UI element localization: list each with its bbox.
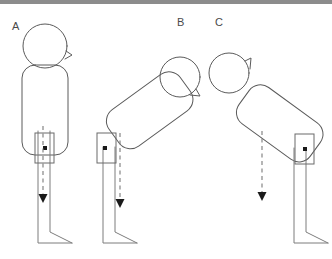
panel-c-hip-joint-marker-icon xyxy=(303,147,307,151)
panel-b-leg-back xyxy=(115,147,137,243)
panel-c-arrow-down-icon xyxy=(258,192,267,201)
panel-a-torso xyxy=(22,65,68,155)
panel-a-hip-joint-marker-icon xyxy=(43,146,47,150)
posture-diagram: A B xyxy=(0,0,332,259)
posture-figure-root: A B xyxy=(0,0,332,259)
panel-a-leg-back xyxy=(50,131,72,243)
panel-b-hip-joint-marker-icon xyxy=(103,146,107,150)
panel-a: A xyxy=(12,20,72,243)
panel-c: C xyxy=(209,16,329,243)
panel-a-head-icon xyxy=(23,24,67,68)
panel-a-label: A xyxy=(12,20,20,32)
panel-b: B xyxy=(97,16,200,243)
panel-a-arrow-down-icon xyxy=(39,194,48,203)
panel-c-leg-back xyxy=(306,148,328,243)
panel-c-head-icon xyxy=(209,53,249,93)
panel-b-arrow-down-icon xyxy=(116,199,125,208)
panel-c-label: C xyxy=(215,16,223,28)
panel-b-label: B xyxy=(177,16,184,28)
